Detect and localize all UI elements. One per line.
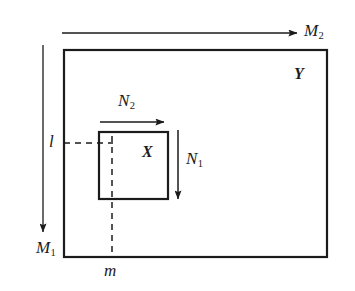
label-outer-rectangle-y: Y: [294, 66, 304, 82]
label-m1-base: M: [36, 238, 50, 257]
label-x-text: X: [142, 143, 153, 160]
label-guide-m: m: [104, 262, 116, 279]
label-m2: M2: [304, 22, 323, 39]
label-n2-subscript: 2: [130, 100, 135, 111]
label-m2-base: M: [304, 21, 318, 40]
label-n1-subscript: 1: [198, 158, 203, 169]
label-n1-base: N: [186, 149, 197, 168]
label-l-text: l: [49, 132, 54, 151]
diagram-canvas: M2 M1 N2 N1 Y X l m: [0, 0, 355, 291]
label-y-text: Y: [294, 65, 304, 82]
label-n2-base: N: [118, 91, 129, 110]
label-inner-rectangle-x: X: [142, 144, 153, 160]
label-m2-subscript: 2: [319, 30, 324, 41]
inner-rectangle-x: [99, 132, 168, 199]
label-m-text: m: [104, 261, 116, 280]
label-n1: N1: [186, 150, 203, 167]
label-guide-l: l: [49, 133, 54, 150]
label-m1-subscript: 1: [51, 247, 56, 258]
label-m1: M1: [36, 239, 55, 256]
label-n2: N2: [118, 92, 135, 109]
